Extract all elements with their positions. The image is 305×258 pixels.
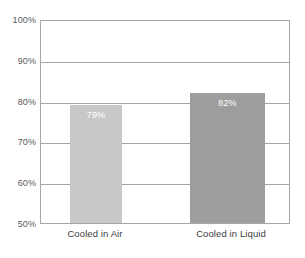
bar-cooled-in-liquid[interactable]: 82% xyxy=(190,93,265,224)
y-tick-label-90: 90% xyxy=(2,57,36,66)
y-tick-label-70: 70% xyxy=(2,138,36,147)
bar-value-label-cooled-in-liquid: 82% xyxy=(190,98,265,108)
x-tick-label-cooled-in-air: Cooled in Air xyxy=(45,228,145,240)
gridline-90 xyxy=(41,62,289,63)
bar-chart: 100% 90% 80% 70% 60% 50% 79% 82% Cooled … xyxy=(0,0,305,258)
y-tick-label-60: 60% xyxy=(2,179,36,188)
y-tick-label-80: 80% xyxy=(2,98,36,107)
y-tick-label-100: 100% xyxy=(2,16,36,25)
bar-value-label-cooled-in-air: 79% xyxy=(70,110,122,120)
y-axis: 100% 90% 80% 70% 60% 50% xyxy=(0,20,36,224)
plot-area: 79% 82% xyxy=(40,20,290,224)
x-tick-label-cooled-in-liquid: Cooled in Liquid xyxy=(176,228,286,240)
y-tick-label-50: 50% xyxy=(2,220,36,229)
x-axis: Cooled in Air Cooled in Liquid xyxy=(40,228,290,244)
bar-cooled-in-air[interactable]: 79% xyxy=(70,105,122,223)
